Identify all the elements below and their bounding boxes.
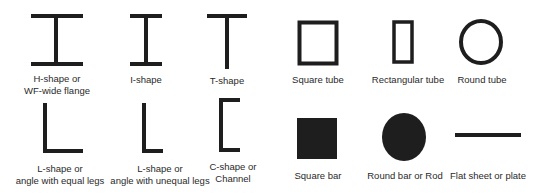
label-line: angle with unequal legs — [110, 175, 209, 187]
label-line: Channel — [210, 173, 257, 185]
label-line: C-shape or — [210, 161, 257, 173]
label-line: T-shape — [210, 75, 244, 87]
l-shape-unequal-label: L-shape or angle with unequal legs — [110, 163, 209, 187]
rectangular-tube-label: Rectangular tube — [372, 74, 444, 86]
label-line: Round tube — [457, 74, 506, 86]
c-shape-label: C-shape or Channel — [210, 161, 257, 185]
t-shape-icon — [207, 14, 247, 69]
l-shape-unequal-icon — [142, 103, 163, 153]
l-shape-equal-label: L-shape or angle with equal legs — [16, 163, 105, 187]
t-shape-label: T-shape — [210, 75, 244, 87]
rectangular-tube-icon — [394, 22, 412, 62]
label-line: WF-wide flange — [24, 85, 90, 97]
label-line: L-shape or — [16, 163, 105, 175]
label-line: H-shape or — [24, 73, 90, 85]
square-bar-icon — [297, 118, 337, 159]
h-shape-label: H-shape or WF-wide flange — [24, 73, 90, 97]
round-tube-icon — [461, 21, 501, 63]
label-line: Round bar or Rod — [367, 170, 443, 182]
label-line: I-shape — [130, 74, 162, 86]
square-tube-label: Square tube — [292, 74, 344, 86]
label-line: Square tube — [292, 74, 344, 86]
label-line: Flat sheet or plate — [450, 170, 526, 182]
label-line: angle with equal legs — [16, 175, 105, 187]
c-shape-icon — [219, 98, 240, 152]
round-tube-label: Round tube — [457, 74, 506, 86]
label-line: Square bar — [294, 170, 341, 182]
i-shape-icon — [130, 14, 162, 66]
square-tube-icon — [300, 23, 337, 64]
round-bar-label: Round bar or Rod — [367, 170, 443, 182]
square-bar-label: Square bar — [294, 170, 341, 182]
flat-plate-icon — [455, 133, 521, 137]
flat-plate-label: Flat sheet or plate — [450, 170, 526, 182]
l-shape-equal-icon — [43, 103, 83, 153]
h-shape-icon — [31, 14, 83, 66]
label-line: Rectangular tube — [372, 74, 444, 86]
i-shape-label: I-shape — [130, 74, 162, 86]
round-bar-icon — [382, 113, 426, 161]
label-line: L-shape or — [110, 163, 209, 175]
